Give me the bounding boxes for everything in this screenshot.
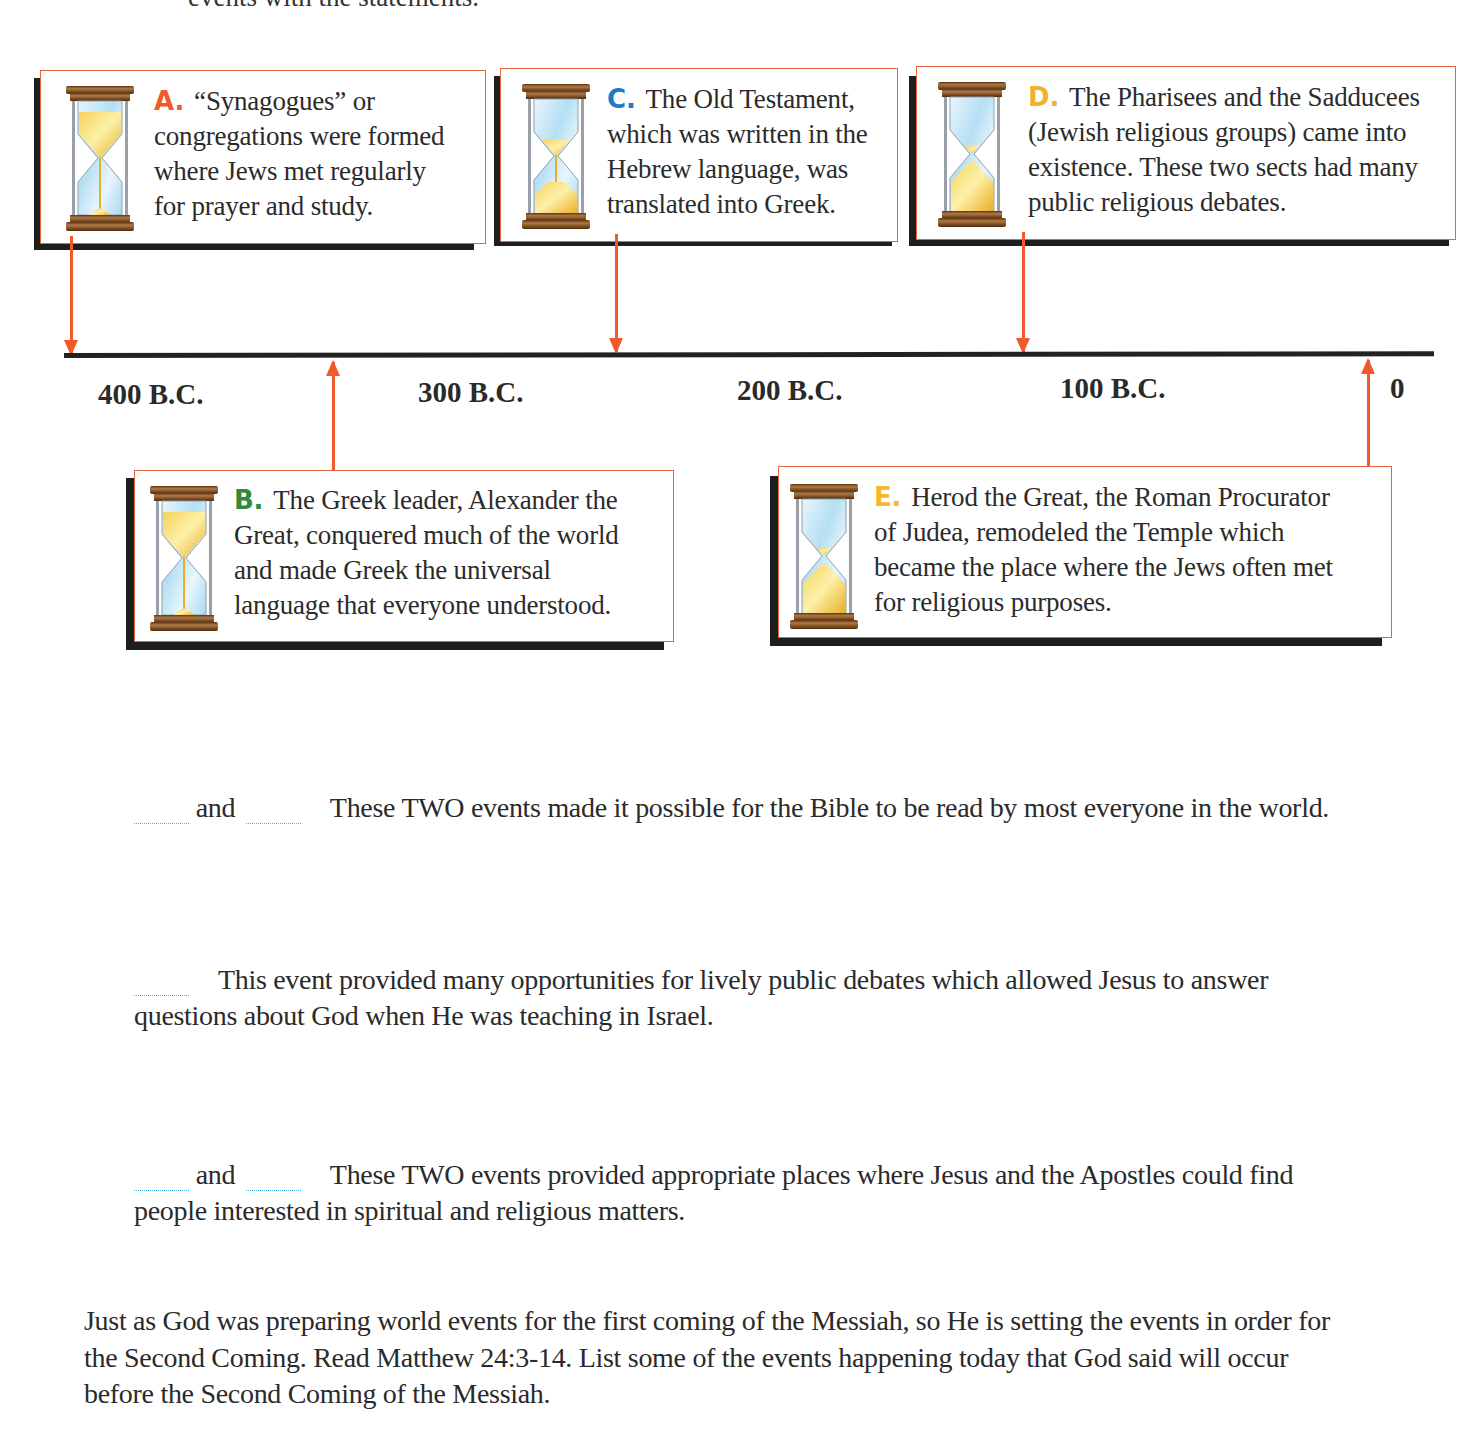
arrow-c-down xyxy=(615,234,618,352)
answer-blank-2[interactable] xyxy=(134,969,189,996)
event-text: D.The Pharisees and the Sadducees (Jewis… xyxy=(1028,80,1458,220)
answer-blank-1b[interactable] xyxy=(246,797,301,824)
event-text: A.“Synagogues” or congregations were for… xyxy=(154,84,484,224)
hourglass-icon xyxy=(936,80,1008,230)
timeline-axis xyxy=(64,351,1434,358)
tick-200bc: 200 B.C. xyxy=(737,374,843,407)
question-text: These TWO events made it possible for th… xyxy=(330,792,1329,823)
question-text-line1: These TWO events provided appropriate pl… xyxy=(330,1159,1293,1190)
event-letter-e: E. xyxy=(874,482,901,512)
instructions-fragment: events with the statements. xyxy=(188,0,479,13)
tick-300bc: 300 B.C. xyxy=(418,376,524,409)
hourglass-icon xyxy=(788,482,860,632)
tick-0: 0 xyxy=(1390,372,1405,405)
connector-and: and xyxy=(196,792,236,823)
closing-paragraph: Just as God was preparing world events f… xyxy=(84,1303,1414,1413)
event-letter-d: D. xyxy=(1028,82,1059,112)
answer-blank-3a[interactable] xyxy=(134,1164,189,1191)
question-text-line2: people interested in spiritual and relig… xyxy=(134,1195,685,1226)
answer-blank-3b[interactable] xyxy=(246,1164,301,1191)
question-3: and These TWO events provided appropriat… xyxy=(134,1157,1354,1229)
event-text: E.Herod the Great, the Roman Procurator … xyxy=(874,480,1394,620)
arrow-a-down xyxy=(70,236,73,354)
question-2: This event provided many opportunities f… xyxy=(134,962,1334,1034)
event-letter-a: A. xyxy=(154,86,184,116)
arrow-e-up xyxy=(1367,360,1370,476)
hourglass-icon xyxy=(520,82,592,232)
question-text-line2: questions about God when He was teaching… xyxy=(134,1000,714,1031)
tick-100bc: 100 B.C. xyxy=(1060,372,1166,405)
question-text-line1: This event provided many opportunities f… xyxy=(218,964,1268,995)
hourglass-icon xyxy=(148,484,220,634)
answer-blank-1a[interactable] xyxy=(134,797,189,824)
event-text: C.The Old Testament, which was written i… xyxy=(607,82,897,222)
event-letter-b: B. xyxy=(234,485,263,515)
connector-and: and xyxy=(196,1159,236,1190)
event-letter-c: C. xyxy=(607,84,636,114)
arrow-b-up xyxy=(332,362,335,480)
arrow-d-down xyxy=(1022,232,1025,352)
event-text: B.The Greek leader, Alexander the Great,… xyxy=(234,483,674,623)
hourglass-icon xyxy=(64,84,136,234)
tick-400bc: 400 B.C. xyxy=(98,378,204,411)
question-1: and These TWO events made it possible fo… xyxy=(134,790,1329,826)
